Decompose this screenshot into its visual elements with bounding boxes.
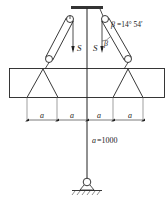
dim-value-text: =1000 <box>97 136 118 145</box>
pin-support <box>72 178 102 195</box>
left-triangle-bracket <box>27 69 58 98</box>
dim-label-4: a <box>128 111 132 120</box>
left-rod <box>45 16 74 70</box>
dimension-extension-lines <box>27 98 143 123</box>
angle-annotation-value: =14° 54′ <box>117 20 143 29</box>
ground-hatching <box>72 191 100 195</box>
support-pin-circle <box>83 178 91 186</box>
right-triangle-bracket <box>113 69 143 98</box>
force-label-left: S <box>77 43 82 53</box>
dim-label-1: a <box>40 111 44 120</box>
force-arrow-right <box>100 21 103 53</box>
right-rod-top-pin <box>102 16 109 23</box>
force-label-right: S <box>93 43 98 53</box>
dim-label-2: a <box>70 111 74 120</box>
left-rod-bottom-pin <box>46 56 53 63</box>
angle-annotation-symbol: β <box>110 20 115 29</box>
structure-diagram: S S β β =14° 54′ a a a a a =1000 <box>0 0 165 208</box>
force-arrow-left <box>71 21 74 53</box>
angle-symbol: β <box>103 39 108 48</box>
right-rod-bottom-pin <box>125 56 132 63</box>
dim-value-symbol: a <box>92 136 96 145</box>
dim-label-3: a <box>97 111 101 120</box>
